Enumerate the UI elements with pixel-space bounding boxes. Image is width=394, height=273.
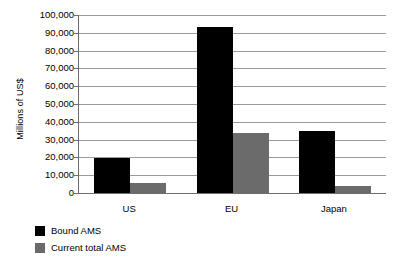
y-tick-label: 50,000 — [20, 99, 74, 109]
gridline — [79, 15, 386, 16]
legend-item: Current total AMS — [35, 243, 126, 253]
y-tick-label: 80,000 — [20, 46, 74, 56]
legend-label: Bound AMS — [51, 226, 101, 236]
y-tick-label: 20,000 — [20, 152, 74, 162]
legend-swatch-icon — [35, 226, 45, 236]
gridline — [79, 68, 386, 69]
bar-us-bound-ams — [94, 158, 130, 193]
y-tick-label: 70,000 — [20, 63, 74, 73]
x-label-us: US — [89, 203, 169, 214]
bar-eu-current-total-ams — [233, 133, 269, 193]
bar-eu-bound-ams — [197, 27, 233, 193]
y-tick-label: 30,000 — [20, 135, 74, 145]
legend: Bound AMSCurrent total AMS — [35, 226, 126, 260]
bar-japan-bound-ams — [299, 131, 335, 193]
y-tick-label: 100,000 — [20, 10, 74, 20]
y-tick-label: 40,000 — [20, 117, 74, 127]
y-tick-label: 60,000 — [20, 81, 74, 91]
plot-area — [78, 15, 386, 194]
bar-japan-current-total-ams — [335, 186, 371, 193]
y-tick-label: 10,000 — [20, 170, 74, 180]
gridline — [79, 33, 386, 34]
x-label-eu: EU — [192, 203, 272, 214]
legend-swatch-icon — [35, 243, 45, 253]
gridline — [79, 86, 386, 87]
y-tick-label: 90,000 — [20, 28, 74, 38]
gridline — [79, 122, 386, 123]
bar-chart: Millions of US$ 100,00090,00080,00070,00… — [0, 0, 394, 273]
legend-label: Current total AMS — [51, 243, 126, 253]
x-label-japan: Japan — [294, 203, 374, 214]
y-tick-label: 0 — [20, 188, 74, 198]
bar-us-current-total-ams — [130, 183, 166, 193]
legend-item: Bound AMS — [35, 226, 126, 236]
gridline — [79, 51, 386, 52]
gridline — [79, 104, 386, 105]
